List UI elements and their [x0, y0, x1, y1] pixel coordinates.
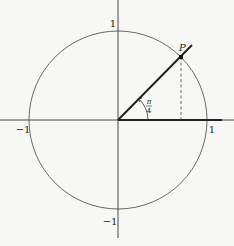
unit-circle-diagram: P π 4 1 −1 −1 1: [0, 0, 234, 246]
angle-numerator: π: [146, 98, 152, 106]
x-negative-label: −1: [16, 124, 31, 135]
angle-denominator: 4: [147, 107, 152, 115]
point-p: [179, 55, 183, 59]
point-label: P: [178, 42, 186, 53]
x-positive-label: 1: [209, 124, 215, 135]
y-negative-label: −1: [103, 216, 118, 227]
y-positive-label: 1: [110, 18, 116, 29]
